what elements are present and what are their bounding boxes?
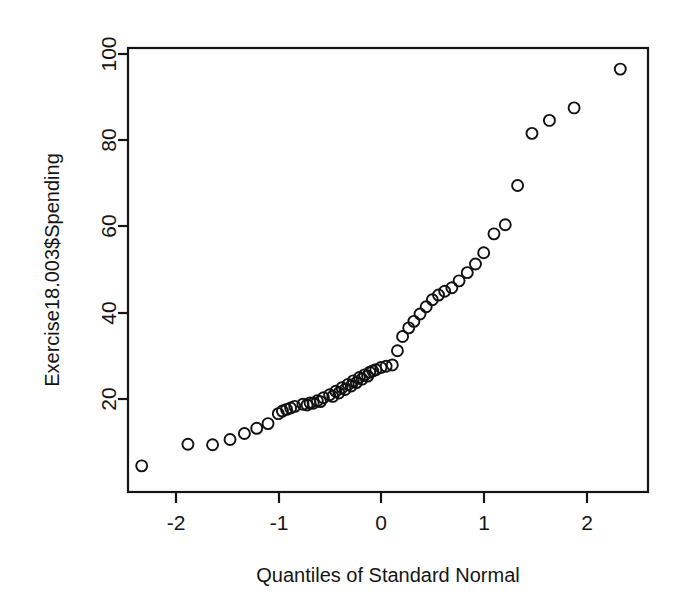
y-tick-label-100: 100 <box>97 36 120 71</box>
y-tick-label-20: 20 <box>97 387 120 410</box>
x-tick-label-2: 2 <box>581 511 593 534</box>
qq-plot-figure: 100 80 60 40 20 Exercise18.003$Spending … <box>0 0 683 611</box>
chart-canvas: 100 80 60 40 20 Exercise18.003$Spending … <box>0 0 683 611</box>
data-point <box>225 434 236 445</box>
y-axis-tick-labels: 100 80 60 40 20 <box>97 36 120 410</box>
y-tick-label-40: 40 <box>97 301 120 324</box>
data-point <box>478 247 489 258</box>
x-axis-ticks <box>176 492 587 503</box>
data-point <box>415 309 426 320</box>
data-point <box>207 439 218 450</box>
plot-frame <box>128 48 648 492</box>
x-axis-title: Quantiles of Standard Normal <box>256 564 519 586</box>
y-axis-ticks <box>118 54 128 399</box>
data-point <box>251 423 262 434</box>
data-point <box>462 267 473 278</box>
data-point <box>470 259 481 270</box>
data-point <box>239 428 250 439</box>
data-point <box>392 345 403 356</box>
data-point <box>263 418 274 429</box>
y-tick-label-80: 80 <box>97 128 120 151</box>
data-point <box>544 115 555 126</box>
y-tick-label-60: 60 <box>97 214 120 237</box>
x-tick-label-neg1: -1 <box>270 511 289 534</box>
x-tick-label-0: 0 <box>375 511 387 534</box>
x-tick-label-1: 1 <box>478 511 490 534</box>
y-axis-title: Exercise18.003$Spending <box>41 153 63 387</box>
x-tick-label-neg2: -2 <box>167 511 186 534</box>
x-axis-tick-labels: -2 -1 0 1 2 <box>167 511 593 534</box>
data-point <box>488 228 499 239</box>
data-point <box>182 439 193 450</box>
data-point <box>421 301 432 312</box>
data-point <box>512 180 523 191</box>
data-point <box>615 64 626 75</box>
data-point <box>569 102 580 113</box>
data-point <box>526 128 537 139</box>
scatter-points-layer <box>136 64 626 472</box>
data-point <box>500 219 511 230</box>
data-point <box>136 460 147 471</box>
